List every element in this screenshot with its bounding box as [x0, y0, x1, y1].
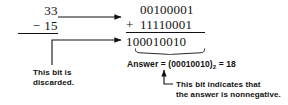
decimal-subtrahend-value: 15 [44, 18, 58, 33]
answer-binary-value: 00010010 [171, 59, 210, 69]
answer-decimal-value: 18 [226, 59, 236, 69]
decimal-subtrahend-row: − 15 [8, 18, 58, 34]
decimal-rule [18, 33, 58, 34]
nonnegative-caption-line-2: the answer is nonnegative. [176, 90, 288, 100]
answer-prefix: Answer = ( [127, 59, 171, 69]
nonnegative-caption-line-1: This bit indicates that [176, 80, 288, 90]
underbrace [135, 48, 205, 55]
answer-base-subscript: 2 [213, 64, 216, 70]
sign-bit-arrow [164, 70, 173, 84]
binary-plus-operator: + [126, 17, 133, 33]
decimal-minuend: 33 [14, 3, 58, 19]
figure-canvas: 33 − 15 00100001 + 11110001 100010010 An… [0, 0, 288, 105]
discarded-bit-caption-line-1: This bit is [33, 68, 103, 78]
binary-rule [126, 32, 205, 33]
binary-addend-first: 00100001 [140, 2, 194, 18]
answer-equals: = [216, 59, 226, 69]
binary-addend-second: 11110001 [140, 17, 192, 33]
discarded-bit-arrow [52, 40, 121, 65]
answer-line: Answer = (00010010)2 = 18 [127, 59, 236, 69]
nonnegative-caption: This bit indicates that the answer is no… [176, 80, 288, 100]
decimal-minus-operator: − [33, 18, 41, 33]
discarded-bit-caption-line-2: discarded. [33, 78, 103, 88]
discarded-bit-caption: This bit is discarded. [33, 68, 103, 88]
